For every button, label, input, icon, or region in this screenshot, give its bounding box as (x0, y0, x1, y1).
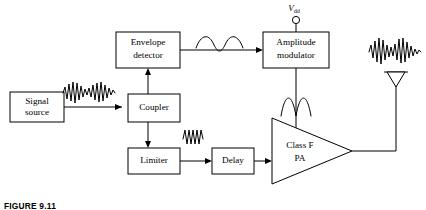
wire-coupler-to-limiter (145, 122, 151, 148)
block-coupler[interactable]: Coupler (128, 94, 180, 122)
wire-delay-to-pa (254, 158, 272, 164)
block-limiter[interactable]: Limiter (128, 148, 180, 174)
vdd-label-subscript: dd (294, 7, 301, 14)
block-class-f-pa[interactable]: Class F PA (272, 118, 352, 184)
amplitude-modulator-label-line1: Amplitude (276, 37, 315, 47)
figure-container: Signal source Envelope detector Coupler … (0, 0, 426, 210)
delay-label: Delay (222, 155, 244, 165)
class-f-pa-label-line2: PA (295, 153, 306, 163)
wire-signal-source-to-coupler (64, 104, 122, 110)
signal-source-label-line2: source (25, 107, 49, 117)
envelope-detector-label-line2: detector (133, 50, 163, 60)
envelope-detector-label-line1: Envelope (131, 37, 166, 47)
wire-limiter-to-delay (180, 158, 212, 164)
wire-pa-to-antenna (352, 72, 396, 151)
block-amplitude-modulator[interactable]: Amplitude modulator (263, 32, 329, 68)
vdd-label: Vdd (288, 3, 301, 14)
block-diagram: Signal source Envelope detector Coupler … (0, 0, 426, 210)
figure-caption: FIGURE 9.11 (4, 201, 56, 210)
class-f-pa-label-line1: Class F (286, 140, 313, 150)
waveform-antenna-output (369, 38, 421, 64)
coupler-label: Coupler (139, 102, 169, 112)
wire-coupler-to-envelope-detector (145, 68, 151, 94)
block-delay[interactable]: Delay (212, 148, 254, 174)
vdd-supply-terminal: Vdd (288, 3, 301, 24)
waveform-envelope-output (196, 37, 243, 51)
antenna-icon (384, 72, 408, 87)
block-signal-source[interactable]: Signal source (10, 92, 64, 122)
signal-source-label-line1: Signal (25, 96, 49, 106)
waveform-limiter-output (183, 130, 203, 144)
block-envelope-detector[interactable]: Envelope detector (116, 32, 180, 68)
waveform-modulated-rf-input (63, 82, 115, 103)
amplitude-modulator-label-line2: modulator (277, 50, 315, 60)
limiter-label: Limiter (140, 155, 168, 165)
